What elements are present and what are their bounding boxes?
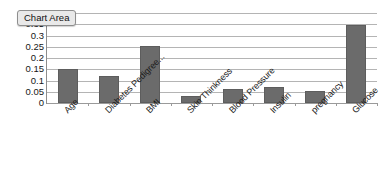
y-axis-tick-label: 0.1 [0,76,44,86]
y-axis-tick-label: 0.15 [0,64,44,74]
y-axis-tick-label: 0.3 [0,31,44,41]
chart-area-tooltip: Chart Area [17,10,76,26]
gridline [47,36,377,37]
x-axis-tick-mark [130,103,131,106]
y-axis-tick-label: 0 [0,98,44,108]
x-axis-tick-mark [171,103,172,106]
bar-chart[interactable]: 00.050.10.150.20.250.30.350.4 AgeDiabete… [0,0,385,181]
gridline [47,58,377,59]
x-axis-tick-mark [377,103,378,106]
bar[interactable] [346,25,366,103]
y-axis-tick-label: 0.2 [0,53,44,63]
gridline [47,69,377,70]
gridline [47,24,377,25]
x-axis-tick-mark [88,103,89,106]
y-axis-tick-label: 0.05 [0,87,44,97]
x-axis-tick-mark [336,103,337,106]
gridline [47,13,377,14]
x-axis-tick-mark [253,103,254,106]
y-axis-tick-label: 0.25 [0,42,44,52]
x-axis-tick-mark [212,103,213,106]
x-axis-tick-mark [295,103,296,106]
gridline [47,47,377,48]
